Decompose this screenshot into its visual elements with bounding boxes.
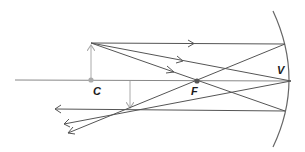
ray-diagram-canvas	[0, 0, 305, 152]
label-f: F	[191, 85, 198, 97]
point-c	[88, 77, 93, 82]
label-c: C	[93, 85, 101, 97]
point-f	[194, 78, 199, 83]
ray-3-reflected	[55, 109, 285, 111]
ray-2-incident	[91, 43, 291, 81]
ray-diagram: C F V	[0, 0, 305, 152]
ray-1-incident	[91, 43, 285, 44]
label-v: V	[277, 64, 284, 76]
principal-axis	[15, 80, 291, 81]
